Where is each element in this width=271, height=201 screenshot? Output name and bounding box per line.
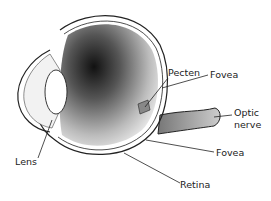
lens-shape xyxy=(45,70,67,114)
label-fovea-upper: Fovea xyxy=(210,70,238,80)
label-fovea-lower: Fovea xyxy=(216,148,244,158)
label-optic: Optic xyxy=(234,108,259,118)
label-pecten: Pecten xyxy=(168,68,200,78)
label-nerve: nerve xyxy=(234,120,261,130)
vitreous-chamber xyxy=(60,24,158,145)
eye-diagram xyxy=(0,0,271,201)
label-retina: Retina xyxy=(180,180,210,190)
label-lens: Lens xyxy=(15,157,37,167)
optic-nerve xyxy=(158,108,220,134)
